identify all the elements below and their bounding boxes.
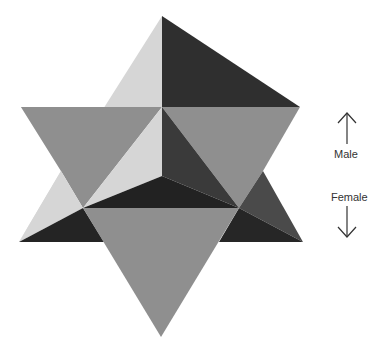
star-tetrahedron-diagram: Male Female <box>0 0 382 355</box>
down-bottom-face <box>83 208 239 337</box>
star-tetrahedron-graphic <box>0 0 382 355</box>
female-label: Female <box>331 191 368 203</box>
arrow-up-icon <box>336 111 358 145</box>
arrow-down-icon <box>336 205 358 239</box>
up-top-right-face <box>162 16 300 107</box>
male-label: Male <box>334 148 358 160</box>
